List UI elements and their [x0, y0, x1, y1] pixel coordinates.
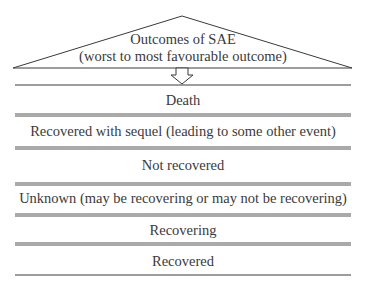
down-arrow-icon — [171, 68, 193, 84]
outcome-not-recovered: Not recovered — [15, 157, 351, 174]
header-subtitle: (worst to most favourable outcome) — [15, 48, 351, 65]
outcome-death: Death — [15, 92, 351, 109]
header-title: Outcomes of SAE — [15, 31, 351, 48]
outcome-unknown: Unknown (may be recovering or may not be… — [15, 190, 351, 207]
outcome-recovering: Recovering — [15, 222, 351, 239]
outcome-recovered-with-sequel: Recovered with sequel (leading to some o… — [15, 123, 351, 140]
outcome-recovered: Recovered — [15, 253, 351, 270]
